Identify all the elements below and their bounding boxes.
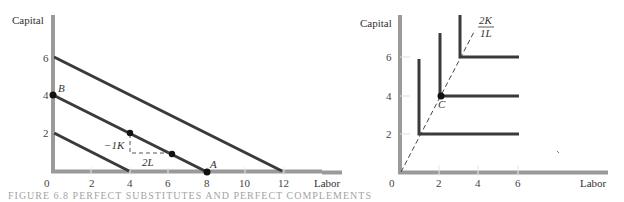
x-ticks: 0 2 4 6 8 10 12	[44, 177, 289, 189]
x-tick-6: 6	[515, 177, 521, 189]
label-b: B	[58, 82, 65, 94]
x-tick-12: 12	[278, 177, 289, 189]
isoquant-mid	[440, 33, 519, 96]
x-tick-8: 8	[204, 177, 210, 189]
x-tick-2: 2	[436, 177, 442, 189]
ratio-denominator: 1L	[480, 27, 492, 39]
stray-mark	[557, 151, 559, 153]
left-chart: 6 4 2 0 2 4 6 8 10 12 Capital Labor	[12, 14, 341, 189]
y-axis-label: Capital	[12, 14, 44, 26]
point-mid-1	[127, 130, 133, 136]
x-tick-10: 10	[239, 177, 251, 189]
x-tick-4: 4	[475, 177, 481, 189]
annotation-2l: 2L	[142, 156, 154, 168]
y-tick-4: 4	[386, 90, 392, 102]
ratio-numerator: 2K	[479, 14, 493, 26]
y-tick-6: 6	[386, 51, 392, 63]
point-mid-2	[169, 151, 175, 157]
figure-caption: FIGURE 6.8 PERFECT SUBSTITUTES AND PERFE…	[8, 190, 608, 202]
label-a: A	[209, 158, 217, 170]
label-c: C	[438, 98, 446, 110]
x-tick-0: 0	[44, 177, 50, 189]
point-b	[50, 92, 57, 99]
right-chart: 6 4 2 0 2 4 6 Capital Labor C 2K 1L	[322, 14, 608, 189]
x-tick-0: 0	[389, 177, 395, 189]
x-tick-2: 2	[89, 177, 95, 189]
y-tick-2: 2	[43, 127, 49, 139]
y-tick-2: 2	[386, 128, 392, 140]
y-tick-6: 6	[43, 52, 49, 64]
annotation-minus-1k: −1K	[104, 139, 125, 151]
figure-canvas: 6 4 2 0 2 4 6 8 10 12 Capital Labor	[0, 0, 624, 202]
x-axis-label: Labor	[314, 177, 341, 189]
y-axis-label: Capital	[360, 17, 392, 29]
x-axis-label: Labor	[580, 177, 607, 189]
y-tick-4: 4	[43, 89, 49, 101]
x-tick-6: 6	[165, 177, 171, 189]
x-tick-4: 4	[127, 177, 133, 189]
